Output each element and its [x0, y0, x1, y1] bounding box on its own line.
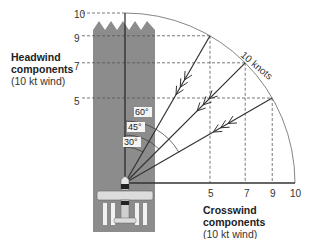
crosswind-title: Crosswind components (10 kt wind)	[203, 204, 316, 239]
x-tick-10: 10	[290, 188, 302, 199]
headwind-title-line3: (10 kt wind)	[11, 75, 73, 87]
headwind-title: Headwind components (10 kt wind)	[11, 51, 73, 87]
y-tick-10: 10	[74, 9, 86, 20]
x-tick-9: 9	[270, 188, 276, 199]
y-tick-5: 5	[74, 96, 80, 107]
crosswind-title-line2: (10 kt wind)	[203, 228, 316, 239]
y-tick-7: 7	[74, 61, 80, 72]
y-tick-9: 9	[74, 33, 80, 44]
wind-speed-label: 10 knots	[239, 49, 275, 82]
x-tick-5: 5	[208, 188, 214, 199]
crosswind-title-line1: Crosswind components	[203, 204, 316, 228]
headwind-title-line1: Headwind	[11, 51, 73, 63]
angle-label-45: 45°	[128, 122, 142, 132]
angle-label-30: 30°	[124, 137, 138, 147]
angle-label-60: 60°	[135, 107, 149, 117]
x-tick-7: 7	[244, 188, 250, 199]
headwind-title-line2: components	[11, 63, 73, 75]
